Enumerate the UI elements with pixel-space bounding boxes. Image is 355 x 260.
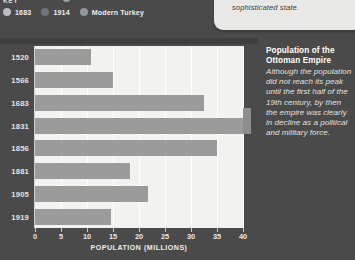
side-note-title: Population of the Ottoman Empire (266, 46, 352, 66)
x-axis-tick-label: 25 (161, 232, 169, 241)
x-axis-tick-label: 0 (33, 232, 37, 241)
bar[interactable] (35, 118, 243, 134)
y-axis-tick-label: 1683 (11, 98, 29, 107)
bar-row (35, 160, 243, 183)
key-item-modern-turkey[interactable]: Modern Turkey (80, 8, 144, 16)
bar-row (35, 69, 243, 92)
key-item-1914[interactable]: 1914 (41, 8, 69, 16)
callout-text: sophisticated state. (232, 3, 299, 12)
bar-chart: 15201566168318311856188119051919 0510152… (0, 44, 258, 260)
key-items: 1683 1914 Modern Turkey (3, 8, 213, 16)
bar[interactable] (35, 163, 130, 179)
side-note-body: Although the population did not reach it… (266, 67, 352, 138)
y-axis-tick-label: 1856 (11, 144, 29, 153)
bar[interactable] (35, 95, 204, 111)
x-axis-title: POPULATION (MILLIONS) (35, 244, 243, 251)
x-axis-tick-label: 30 (187, 232, 195, 241)
x-axis-tick-label: 5 (59, 232, 63, 241)
bar-series (35, 46, 243, 228)
bar[interactable] (35, 186, 148, 202)
y-axis-tick-label: 1520 (11, 53, 29, 62)
gridline (243, 46, 244, 228)
bar[interactable] (35, 49, 91, 65)
key-item-label: Modern Turkey (92, 9, 144, 16)
bar[interactable] (35, 72, 113, 88)
y-axis-tick-label: 1881 (11, 167, 29, 176)
bar-row (35, 183, 243, 206)
bar-row (35, 205, 243, 228)
x-axis-tick-label: 15 (109, 232, 117, 241)
sidebar-tab-fragment (243, 108, 251, 134)
x-axis: 0510152025303540 (35, 228, 243, 244)
y-axis-tick-label: 1919 (11, 212, 29, 221)
infographic-page: sophisticated state. KEY 1683 1914 Moder… (0, 0, 355, 260)
key-title: KEY (3, 0, 213, 4)
x-axis-tick-label: 10 (83, 232, 91, 241)
x-axis-tick-label: 35 (213, 232, 221, 241)
bar-row (35, 46, 243, 69)
y-axis-tick-label: 1905 (11, 189, 29, 198)
legend-dot-icon (41, 8, 49, 16)
y-axis-tick-label: 1831 (11, 121, 29, 130)
bar[interactable] (35, 209, 111, 225)
legend-dot-icon (3, 8, 11, 16)
bar[interactable] (35, 140, 217, 156)
chart-key: KEY 1683 1914 Modern Turkey (3, 0, 213, 16)
y-axis-labels: 15201566168318311856188119051919 (0, 46, 33, 228)
callout-box: sophisticated state. (214, 0, 355, 30)
key-item-label: 1683 (15, 9, 31, 16)
key-item-1683[interactable]: 1683 (3, 8, 31, 16)
legend-dot-icon (80, 8, 88, 16)
x-axis-tick-label: 20 (135, 232, 143, 241)
key-item-label: 1914 (53, 9, 69, 16)
bar-row (35, 92, 243, 115)
bar-row (35, 114, 243, 137)
side-note: Population of the Ottoman Empire Althoug… (266, 46, 352, 138)
bar-row (35, 137, 243, 160)
plot-area (35, 46, 243, 228)
x-axis-tick-label: 40 (239, 232, 247, 241)
y-axis-tick-label: 1566 (11, 76, 29, 85)
